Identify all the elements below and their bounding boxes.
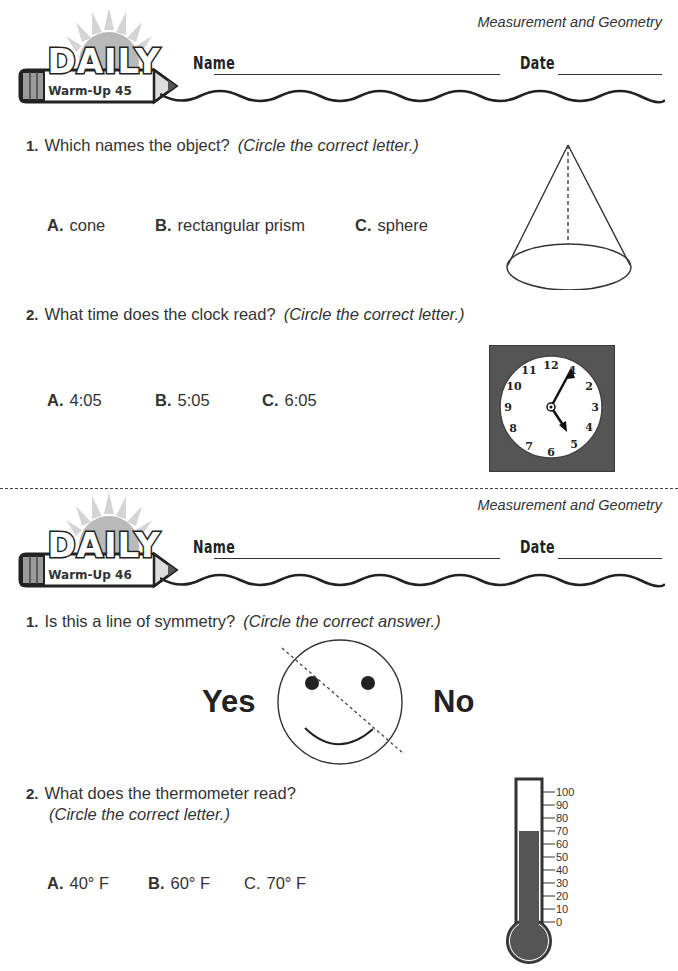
smiley-face-icon <box>270 636 410 770</box>
question-2: 2.What time does the clock read?(Circle … <box>26 305 465 324</box>
svg-text:10: 10 <box>556 903 568 915</box>
question-number: 1. <box>26 613 39 630</box>
daily-warmup-logo-icon: DAILY Warm-Up 46 <box>14 484 184 594</box>
question-number: 2. <box>26 306 39 323</box>
daily-warmup-logo-icon: DAILY Warm-Up 45 <box>14 0 184 110</box>
option-a[interactable]: A.cone <box>47 216 155 235</box>
svg-text:3: 3 <box>591 401 599 414</box>
svg-text:DAILY: DAILY <box>47 41 160 81</box>
date-label: Date <box>520 537 555 557</box>
question-number: 2. <box>26 785 39 802</box>
question-text: Is this a line of symmetry? <box>45 612 236 630</box>
svg-text:100: 100 <box>556 786 574 798</box>
question-text: What time does the clock read? <box>45 305 276 323</box>
question-2-hint: (Circle the correct letter.) <box>49 805 230 824</box>
warmup-header: DAILY Warm-Up 46 Name Date <box>0 484 678 594</box>
option-c[interactable]: C.6:05 <box>262 391 317 410</box>
svg-text:2: 2 <box>585 380 593 393</box>
svg-text:DAILY: DAILY <box>47 525 160 565</box>
option-b[interactable]: B.5:05 <box>155 391 262 410</box>
wavy-divider <box>160 84 665 108</box>
svg-text:90: 90 <box>556 799 568 811</box>
question-text: Which names the object? <box>45 136 230 154</box>
warmup-header: DAILY Warm-Up 45 Name Date <box>0 0 678 110</box>
svg-text:50: 50 <box>556 851 568 863</box>
svg-text:70: 70 <box>556 825 568 837</box>
answer-no[interactable]: No <box>433 684 474 720</box>
answer-yes[interactable]: Yes <box>202 684 255 720</box>
question-text: What does the thermometer read? <box>45 784 296 802</box>
svg-text:8: 8 <box>509 422 517 435</box>
svg-text:Warm-Up 45: Warm-Up 45 <box>48 84 132 98</box>
answer-options: A.40° FB.60° FC.70° F <box>47 874 306 893</box>
question-1: 1.Which names the object?(Circle the cor… <box>26 136 419 155</box>
option-a[interactable]: A.4:05 <box>47 391 155 410</box>
name-field[interactable] <box>214 74 500 75</box>
name-label: Name <box>193 537 235 557</box>
question-hint: (Circle the correct answer.) <box>243 612 440 630</box>
symmetry-line <box>282 648 404 754</box>
svg-text:9: 9 <box>504 401 512 414</box>
name-label: Name <box>193 53 235 73</box>
svg-text:20: 20 <box>556 890 568 902</box>
option-b[interactable]: B.60° F <box>148 874 244 893</box>
svg-text:0: 0 <box>556 916 562 928</box>
date-field[interactable] <box>558 74 662 75</box>
name-field[interactable] <box>214 558 500 559</box>
svg-text:10: 10 <box>506 380 522 393</box>
wavy-divider <box>160 568 665 592</box>
question-hint: (Circle the correct letter.) <box>284 305 465 323</box>
svg-text:30: 30 <box>556 877 568 889</box>
option-c[interactable]: C.sphere <box>355 216 428 235</box>
question-hint: (Circle the correct letter.) <box>238 136 419 154</box>
clock-icon: 12 1 2 3 4 5 6 7 8 9 10 11 <box>489 345 615 472</box>
answer-options: A.4:05B.5:05C.6:05 <box>47 391 317 410</box>
option-a[interactable]: A.40° F <box>47 874 148 893</box>
svg-text:Warm-Up 46: Warm-Up 46 <box>48 568 132 582</box>
svg-text:5: 5 <box>570 438 578 451</box>
svg-text:60: 60 <box>556 838 568 850</box>
option-b[interactable]: B.rectangular prism <box>155 216 355 235</box>
svg-text:40: 40 <box>556 864 568 876</box>
question-2: 2.What does the thermometer read? <box>26 784 296 803</box>
date-label: Date <box>520 53 555 73</box>
question-1: 1.Is this a line of symmetry?(Circle the… <box>26 612 441 631</box>
svg-text:80: 80 <box>556 812 568 824</box>
svg-text:11: 11 <box>521 364 536 377</box>
svg-text:12: 12 <box>543 359 558 372</box>
svg-text:6: 6 <box>547 446 555 459</box>
cone-icon <box>500 140 640 290</box>
option-c[interactable]: C.70° F <box>244 874 306 893</box>
svg-text:4: 4 <box>585 421 593 434</box>
answer-options: A.coneB.rectangular prismC.sphere <box>47 216 428 235</box>
svg-text:7: 7 <box>525 440 533 453</box>
date-field[interactable] <box>558 558 662 559</box>
thermometer-icon: 100 90 80 70 60 50 40 30 20 10 0 <box>500 776 600 971</box>
question-number: 1. <box>26 137 39 154</box>
